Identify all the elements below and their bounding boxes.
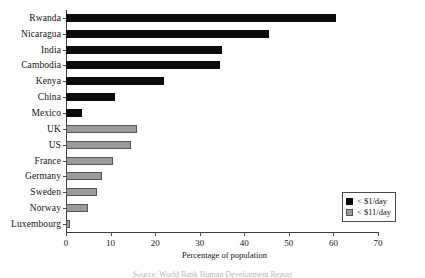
x-axis-title-text: Percentage of population xyxy=(182,250,267,260)
bar-row: UK xyxy=(66,121,378,137)
category-label: India xyxy=(41,45,61,55)
x-axis-tick-label: 20 xyxy=(151,238,160,248)
category-label: US xyxy=(49,140,61,150)
legend-item-1[interactable]: < $11/day xyxy=(346,207,391,217)
category-label: Cambodia xyxy=(21,60,61,70)
bar[interactable] xyxy=(66,109,82,117)
bar[interactable] xyxy=(66,204,88,212)
plot-area: RwandaNicaraguaIndiaCambodiaKenyaChinaMe… xyxy=(66,10,378,232)
legend-swatch-icon-light xyxy=(346,209,353,216)
bar[interactable] xyxy=(66,220,70,228)
category-label: China xyxy=(38,92,61,102)
bar-row: Cambodia xyxy=(66,58,378,74)
bar-row: Germany xyxy=(66,169,378,185)
x-axis-tick-label: 10 xyxy=(106,238,115,248)
x-axis-tick-label: 40 xyxy=(240,238,249,248)
bar[interactable] xyxy=(66,14,336,22)
bar[interactable] xyxy=(66,93,115,101)
category-label: Germany xyxy=(25,171,61,181)
bar-row: US xyxy=(66,137,378,153)
x-axis-tick-label: 0 xyxy=(64,238,69,248)
chart-legend: < $1/day < $11/day xyxy=(342,192,396,222)
source-caption: Source: World Bank Human Development Rep… xyxy=(0,270,425,278)
bar[interactable] xyxy=(66,61,220,69)
bar-row: Mexico xyxy=(66,105,378,121)
bar[interactable] xyxy=(66,141,131,149)
bar-row: Norway xyxy=(66,200,378,216)
x-axis-tick xyxy=(244,232,245,236)
x-axis-tick-label: 50 xyxy=(284,238,293,248)
bar-row: Luxembourg xyxy=(66,216,378,232)
category-label: Kenya xyxy=(36,76,61,86)
bar[interactable] xyxy=(66,77,164,85)
bar[interactable] xyxy=(66,46,222,54)
bar[interactable] xyxy=(66,188,97,196)
legend-swatch-icon-dark xyxy=(346,198,353,205)
bar-row: China xyxy=(66,89,378,105)
category-label: Sweden xyxy=(30,187,61,197)
bar-row: France xyxy=(66,153,378,169)
bar-row: India xyxy=(66,42,378,58)
x-axis-tick xyxy=(200,232,201,236)
legend-item-0[interactable]: < $1/day xyxy=(346,196,391,206)
bar-row: Rwanda xyxy=(66,10,378,26)
category-label: Luxembourg xyxy=(11,219,61,229)
bar-chart: RwandaNicaraguaIndiaCambodiaKenyaChinaMe… xyxy=(0,0,425,278)
legend-label-1: < $11/day xyxy=(357,207,391,217)
legend-label-0: < $1/day xyxy=(357,196,387,206)
x-axis-tick xyxy=(333,232,334,236)
x-axis-tick-label: 60 xyxy=(329,238,338,248)
bar[interactable] xyxy=(66,30,269,38)
category-label: Mexico xyxy=(31,108,61,118)
category-label: Nicaragua xyxy=(21,29,61,39)
x-axis-tick xyxy=(155,232,156,236)
x-axis-tick xyxy=(378,232,379,236)
bar[interactable] xyxy=(66,172,102,180)
x-axis-tick xyxy=(66,232,67,236)
x-axis-title: Percentage of population xyxy=(0,250,425,260)
category-label: Norway xyxy=(30,203,61,213)
category-label: Rwanda xyxy=(29,13,61,23)
bar[interactable] xyxy=(66,157,113,165)
bar-row: Kenya xyxy=(66,73,378,89)
x-axis-tick-label: 70 xyxy=(374,238,383,248)
bar-row: Sweden xyxy=(66,184,378,200)
x-axis-tick xyxy=(289,232,290,236)
bar-row: Nicaragua xyxy=(66,26,378,42)
x-axis-tick-label: 30 xyxy=(195,238,204,248)
bar[interactable] xyxy=(66,125,137,133)
category-label: UK xyxy=(47,124,61,134)
x-axis-tick xyxy=(111,232,112,236)
category-label: France xyxy=(35,156,61,166)
x-axis-line xyxy=(66,232,378,233)
